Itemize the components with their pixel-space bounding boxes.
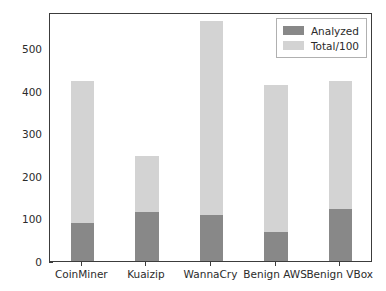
y-tick-label: 300 — [22, 128, 42, 141]
x-tick-label: WannaCry — [184, 268, 238, 281]
x-tick-label: Benign AWS — [243, 268, 307, 281]
plot-area: Analyzed Total/100 — [49, 13, 372, 262]
chart-legend: Analyzed Total/100 — [276, 18, 367, 58]
bar-segment-total — [71, 81, 94, 223]
y-tick-label: 0 — [35, 256, 42, 269]
x-axis-ticks: CoinMinerKuaizipWannaCryBenign AWSBenign… — [49, 262, 372, 291]
bar-segment-analyzed — [264, 232, 287, 261]
x-tick-label: CoinMiner — [55, 268, 108, 281]
y-tick-label: 200 — [22, 171, 42, 184]
x-tick-mark — [145, 262, 146, 266]
legend-swatch-analyzed — [283, 26, 304, 35]
bar-segment-total — [135, 156, 158, 212]
legend-swatch-total — [283, 41, 304, 50]
bar-segment-analyzed — [135, 212, 158, 261]
chart-figure: Number of events 0100200300400500 Analyz… — [0, 0, 386, 291]
bar-segment-total — [329, 81, 352, 209]
bar-segment-analyzed — [200, 215, 223, 261]
x-tick-label: Kuaizip — [127, 268, 164, 281]
x-tick-mark — [275, 262, 276, 266]
bar-wannacry — [200, 12, 223, 261]
bar-segment-total — [264, 85, 287, 232]
y-axis-ticks: 0100200300400500 — [0, 13, 49, 262]
bar-coinminer — [71, 12, 94, 261]
y-tick-label: 400 — [22, 86, 42, 99]
x-tick-label: Benign VBox — [306, 268, 373, 281]
x-tick-mark — [339, 262, 340, 266]
y-tick-label: 500 — [22, 43, 42, 56]
bar-segment-analyzed — [329, 209, 352, 261]
x-tick-mark — [210, 262, 211, 266]
legend-item-total: Total/100 — [283, 38, 359, 53]
legend-label-total: Total/100 — [311, 40, 359, 52]
legend-item-analyzed: Analyzed — [283, 23, 359, 38]
y-tick-label: 100 — [22, 213, 42, 226]
bar-segment-analyzed — [71, 223, 94, 261]
bar-segment-total — [200, 21, 223, 214]
x-tick-mark — [81, 262, 82, 266]
bar-kuaizip — [135, 12, 158, 261]
legend-label-analyzed: Analyzed — [311, 25, 359, 37]
